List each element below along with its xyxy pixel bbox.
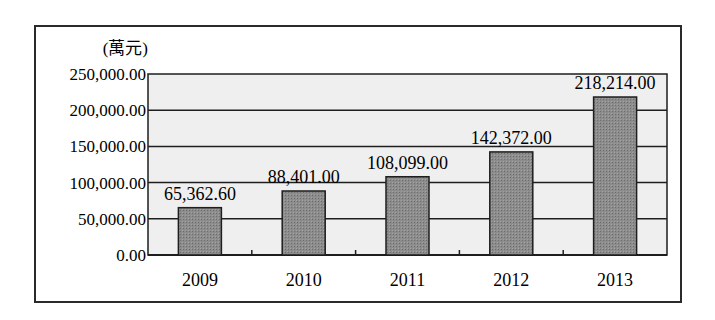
x-axis-tick-labels: 20092010201120122013 [182, 270, 633, 290]
x-tick-label: 2009 [182, 270, 218, 290]
x-tick-label: 2011 [390, 270, 425, 290]
data-label: 108,099.00 [367, 153, 448, 173]
bar-2009 [178, 208, 221, 255]
data-label: 88,401.00 [268, 167, 340, 187]
y-axis-tick-labels: 0.0050,000.00100,000.00150,000.00200,000… [70, 65, 147, 265]
bar-2013 [594, 97, 637, 255]
x-tick-label: 2010 [286, 270, 322, 290]
bar-2010 [282, 191, 325, 255]
data-label: 65,362.60 [164, 184, 236, 204]
data-label: 218,214.00 [575, 73, 656, 93]
y-tick-label: 50,000.00 [78, 210, 146, 229]
x-tick-label: 2012 [493, 270, 529, 290]
y-tick-label: 100,000.00 [70, 174, 147, 193]
bar-2011 [386, 177, 429, 255]
x-tick-label: 2013 [597, 270, 633, 290]
y-tick-label: 250,000.00 [70, 65, 147, 84]
unit-label: (萬元) [103, 39, 148, 58]
y-tick-label: 200,000.00 [70, 101, 147, 120]
y-tick-label: 0.00 [116, 246, 146, 265]
data-label: 142,372.00 [471, 128, 552, 148]
y-tick-label: 150,000.00 [70, 137, 147, 156]
bar-chart: (萬元) 0.0050,000.00100,000.00150,000.0020… [0, 0, 715, 320]
bar-2012 [490, 152, 533, 255]
